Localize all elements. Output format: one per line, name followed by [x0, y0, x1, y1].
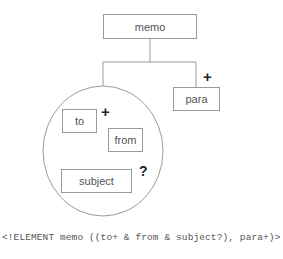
subject-occurrence-question: ?: [139, 164, 148, 178]
to-occurrence-plus: +: [101, 104, 110, 119]
from-label: from: [115, 134, 137, 146]
to-element-box: to: [62, 109, 97, 133]
para-element-box: para: [173, 87, 220, 111]
subject-element-box: subject: [61, 169, 132, 193]
subject-label: subject: [79, 175, 114, 187]
to-label: to: [75, 115, 84, 127]
para-occurrence-plus: +: [203, 69, 212, 84]
memo-element-box: memo: [103, 14, 197, 39]
dtd-declaration: <!ELEMENT memo ((to+ & from & subject?),…: [2, 232, 280, 243]
memo-label: memo: [135, 21, 166, 33]
from-element-box: from: [108, 128, 143, 152]
para-label: para: [185, 93, 207, 105]
